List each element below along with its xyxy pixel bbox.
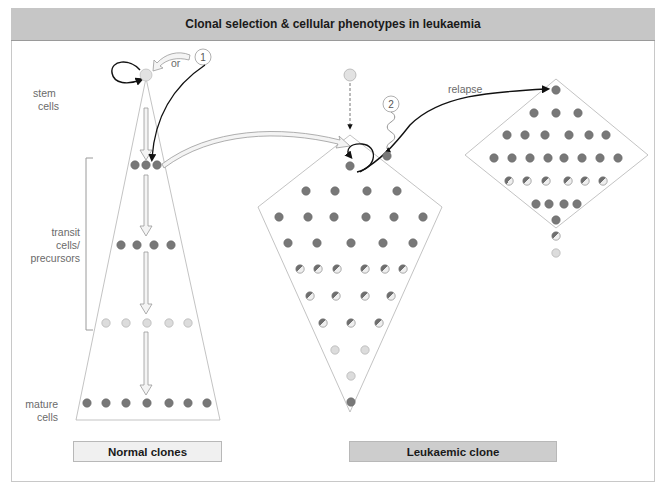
normal-precursor-cell bbox=[122, 319, 130, 327]
relapse-cell bbox=[596, 154, 604, 162]
normal-mature-cell bbox=[102, 399, 110, 407]
normal-mature-cell bbox=[122, 399, 130, 407]
transit-label-3: precursors bbox=[30, 252, 80, 264]
normal-transit-cell bbox=[150, 241, 158, 249]
leukaemic-cell bbox=[304, 213, 312, 221]
leukaemic-cell bbox=[379, 239, 387, 247]
normal-clones-label-box: Normal clones bbox=[73, 441, 222, 462]
leukaemic-partial-cell bbox=[296, 265, 304, 273]
relapse-partial-cell bbox=[581, 177, 589, 185]
relapse-light-cell bbox=[552, 249, 560, 257]
relapse-cell bbox=[490, 154, 498, 162]
self-renewal-loop-normal bbox=[112, 62, 140, 83]
relapse-cell bbox=[565, 131, 573, 139]
relapse-diamond bbox=[465, 79, 648, 228]
cells-layer bbox=[83, 69, 622, 407]
leukaemic-partial-cell bbox=[387, 292, 395, 300]
leukaemic-partial-cell bbox=[399, 265, 407, 273]
relapse-cell bbox=[578, 154, 586, 162]
relapse-partial-cell bbox=[542, 177, 550, 185]
leukaemic-origin-stem-cell bbox=[344, 69, 356, 81]
relapse-cell bbox=[530, 109, 538, 117]
relapse-cell bbox=[585, 131, 593, 139]
leukaemic-cell bbox=[302, 187, 310, 195]
normal-clones-label: Normal clones bbox=[108, 446, 187, 458]
relapse-cell bbox=[552, 109, 560, 117]
normal-early-cell bbox=[142, 161, 150, 169]
relapse-partial-cell bbox=[552, 232, 560, 240]
normal-precursor-cell bbox=[184, 319, 192, 327]
normal-stem-cell bbox=[140, 69, 152, 81]
transit-label: transit bbox=[51, 226, 80, 238]
leukaemic-partial-cell bbox=[333, 265, 341, 273]
leukaemic-partial-cell bbox=[375, 319, 383, 327]
leukaemic-cell bbox=[284, 239, 292, 247]
mature-label: mature bbox=[25, 398, 58, 410]
leukaemic-light-cell bbox=[361, 346, 369, 354]
leukaemic-terminal-cell bbox=[347, 398, 355, 406]
leukaemic-cell bbox=[331, 187, 339, 195]
normal-precursor-cell bbox=[102, 319, 110, 327]
relapse-cell bbox=[552, 86, 560, 94]
relapse-cell bbox=[526, 154, 534, 162]
relapse-cell bbox=[614, 154, 622, 162]
event-2-label: 2 bbox=[388, 99, 394, 110]
leukaemic-partial-cell bbox=[319, 319, 327, 327]
normal-early-cell bbox=[153, 161, 161, 169]
leukaemic-cell bbox=[313, 239, 321, 247]
relapse-partial-cell bbox=[505, 177, 513, 185]
normal-transit-cell bbox=[117, 241, 125, 249]
diagram-canvas: stem cells transit cells/ precursors mat… bbox=[0, 0, 664, 492]
leukaemic-cell bbox=[419, 213, 427, 221]
leukaemic-light-cell bbox=[347, 372, 355, 380]
normal-precursor-cell bbox=[143, 319, 151, 327]
leukaemic-cell bbox=[330, 213, 338, 221]
relapse-cell bbox=[574, 109, 582, 117]
leukaemic-partial-cell bbox=[361, 292, 369, 300]
stem-cells-label: stem bbox=[33, 87, 56, 99]
normal-mature-cell bbox=[203, 399, 211, 407]
leukaemic-cell bbox=[362, 213, 370, 221]
normal-transit-cell bbox=[167, 241, 175, 249]
transform-hollow-arrow bbox=[162, 131, 350, 168]
hollow-arrow-2 bbox=[140, 175, 152, 236]
leukaemic-cell bbox=[409, 239, 417, 247]
normal-precursor-cell bbox=[165, 319, 173, 327]
normal-transit-cell bbox=[133, 241, 141, 249]
relapse-cell bbox=[545, 200, 553, 208]
leukaemic-partial-cell bbox=[347, 319, 355, 327]
relapse-partial-cell bbox=[599, 177, 607, 185]
leukaemic-partial-cell bbox=[306, 292, 314, 300]
leukaemic-light-cell bbox=[331, 346, 339, 354]
relapse-cell bbox=[573, 200, 581, 208]
leukaemic-partial-cell bbox=[314, 265, 322, 273]
leukaemic-cell bbox=[390, 213, 398, 221]
relapse-cell bbox=[541, 131, 549, 139]
relapse-cell bbox=[560, 200, 568, 208]
leukaemic-cell bbox=[363, 187, 371, 195]
leukaemic-clone-kite bbox=[258, 135, 442, 412]
relapse-cell bbox=[552, 216, 560, 224]
mutated-cell bbox=[383, 152, 391, 160]
hollow-arrow-1 bbox=[140, 108, 152, 160]
hollow-arrow-4 bbox=[140, 332, 152, 395]
leukaemic-clone-label: Leukaemic clone bbox=[407, 446, 500, 458]
event-1-label: 1 bbox=[200, 52, 206, 63]
relapse-cell bbox=[532, 200, 540, 208]
leukaemic-cell bbox=[275, 213, 283, 221]
leukaemic-partial-cell bbox=[381, 265, 389, 273]
mature-label-2: cells bbox=[37, 411, 58, 423]
normal-mature-cell bbox=[83, 399, 91, 407]
leukaemic-cell bbox=[393, 187, 401, 195]
relapse-label: relapse bbox=[448, 83, 483, 95]
leukaemic-clone-label-box: Leukaemic clone bbox=[349, 441, 557, 462]
differentiation-arrows bbox=[140, 108, 152, 395]
relapse-cell bbox=[521, 131, 529, 139]
relapse-cell bbox=[503, 131, 511, 139]
normal-mature-cell bbox=[143, 399, 151, 407]
normal-early-cell bbox=[131, 161, 139, 169]
transit-bracket bbox=[86, 158, 93, 330]
relapse-partial-cell bbox=[564, 177, 572, 185]
relapse-cell bbox=[544, 154, 552, 162]
or-label: or bbox=[171, 57, 181, 69]
